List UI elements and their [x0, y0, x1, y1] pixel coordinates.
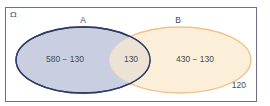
outside-value: 120 [232, 80, 246, 90]
set-b-only-value: 430 − 130 [176, 54, 214, 64]
set-a-only-value: 580 − 130 [46, 54, 84, 64]
set-a-label: A [80, 15, 86, 25]
set-b-label: B [175, 15, 181, 25]
intersection-value: 130 [124, 54, 138, 64]
venn-diagram: Ω A B 580 − 130 130 430 − 130 120 [0, 0, 270, 106]
universe-label: Ω [10, 10, 17, 19]
